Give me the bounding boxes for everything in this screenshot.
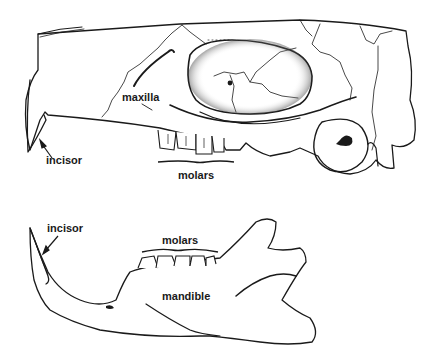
ear-opening [336,135,352,146]
lower-molars [138,256,216,268]
label-mandible: mandible [162,290,210,302]
lower-molars-brace [142,249,218,252]
label-upper-incisor: incisor [46,154,82,166]
label-upper-molars: molars [178,169,214,181]
label-lower-molars: molars [162,234,198,246]
rodent-skull-diagram [0,0,442,363]
upper-molars-brace [158,161,234,163]
upper-molars [158,130,224,154]
lower-incisor-arrow [43,236,58,254]
label-maxilla: maxilla [122,91,159,103]
label-lower-incisor: incisor [47,222,83,234]
